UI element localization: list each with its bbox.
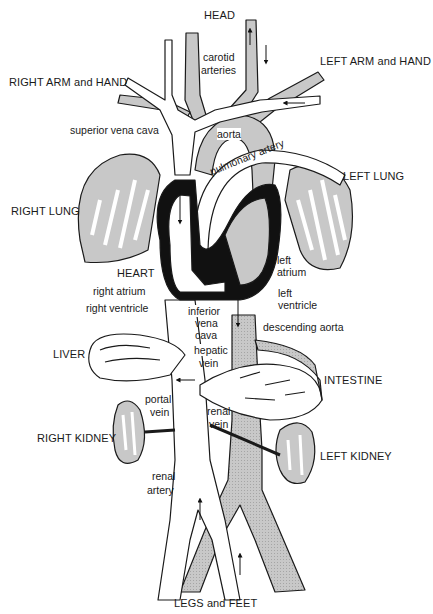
label-renal-artery-2: artery xyxy=(147,484,174,496)
label-inferior-vena-cava-3: cava xyxy=(195,329,217,341)
label-carotid-2: arteries xyxy=(201,64,236,76)
label-heart: HEART xyxy=(117,267,155,279)
label-left-kidney: LEFT KIDNEY xyxy=(320,450,392,462)
label-right-atrium: right atrium xyxy=(93,285,146,297)
label-intestine: INTESTINE xyxy=(324,374,382,386)
label-right-kidney: RIGHT KIDNEY xyxy=(37,432,116,444)
label-hepatic-vein-1: hepatic xyxy=(194,344,228,356)
label-left-ventricle-2: ventricle xyxy=(278,299,317,311)
label-descending-aorta: descending aorta xyxy=(263,321,344,333)
label-renal-vein-2: vein xyxy=(209,418,228,430)
label-carotid-1: carotid xyxy=(203,51,235,63)
right-lung xyxy=(78,154,160,262)
label-inferior-vena-cava-1: inferior xyxy=(188,305,220,317)
label-renal-artery-1: renal xyxy=(152,470,175,482)
label-superior-vena-cava: superior vena cava xyxy=(70,124,159,136)
label-liver: LIVER xyxy=(53,348,85,360)
label-left-atrium-1: left xyxy=(277,254,291,266)
label-legs: LEGS and FEET xyxy=(174,597,257,609)
label-left-atrium-2: atrium xyxy=(277,266,306,278)
label-portal-vein-2: vein xyxy=(150,406,169,418)
label-hepatic-vein-2: vein xyxy=(199,357,218,369)
label-right-arm: RIGHT ARM and HAND xyxy=(9,76,127,88)
label-portal-vein-1: portal xyxy=(145,393,171,405)
label-right-ventricle: right ventricle xyxy=(86,302,148,314)
label-left-ventricle-1: left xyxy=(278,287,292,299)
label-renal-vein-1: renal xyxy=(207,405,230,417)
label-left-arm: LEFT ARM and HAND xyxy=(320,55,431,67)
label-aorta: aorta xyxy=(217,128,241,140)
heart xyxy=(157,180,281,300)
label-inferior-vena-cava-2: vena xyxy=(195,317,218,329)
label-head: HEAD xyxy=(204,9,235,21)
label-left-lung: LEFT LUNG xyxy=(343,170,404,182)
label-right-lung: RIGHT LUNG xyxy=(11,205,80,217)
